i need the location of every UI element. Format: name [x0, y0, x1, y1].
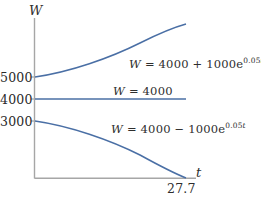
annotation-upper-body: 4000 + 1000e — [159, 57, 244, 71]
x-axis-label: t — [196, 165, 201, 180]
annotation-upper-equation: W = 4000 + 1000e0.05t — [129, 57, 261, 71]
annotation-lower-equation: W = 4000 − 1000e0.05t — [111, 122, 246, 136]
annotation-upper-variable: W — [129, 57, 141, 71]
annotation-upper-exponent: 0.05t — [243, 56, 261, 65]
annotation-lower-exponent: 0.05t — [225, 121, 245, 130]
y-tick-label-5000: 5000 — [0, 70, 29, 85]
annotation-upper-exponent-number: 0.05 — [243, 56, 260, 65]
annotation-lower-body: 4000 − 1000e — [141, 122, 226, 136]
figure-container: W t 5000 4000 3000 27.7 W = 4000 + 1000e… — [0, 0, 261, 203]
annotation-middle-body: 4000 — [143, 84, 173, 98]
annotation-upper-equals: = — [145, 57, 155, 71]
annotation-lower-variable: W — [111, 122, 123, 136]
plot-canvas — [0, 0, 261, 203]
annotation-middle-equation: W = 4000 — [113, 84, 173, 98]
annotation-middle-variable: W — [113, 84, 125, 98]
annotation-middle-equals: = — [129, 84, 139, 98]
annotation-lower-exponent-number: 0.05 — [225, 121, 242, 130]
y-axis-label: W — [29, 3, 43, 18]
y-tick-label-4000: 4000 — [0, 92, 29, 107]
annotation-lower-exponent-variable: t — [243, 121, 246, 130]
y-tick-label-3000: 3000 — [0, 114, 29, 129]
annotation-lower-equals: = — [127, 122, 137, 136]
x-tick-label-27-7: 27.7 — [167, 181, 196, 196]
